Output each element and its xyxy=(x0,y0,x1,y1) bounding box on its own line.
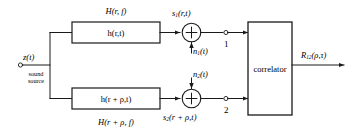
input-signal-label: z(t) xyxy=(23,53,34,62)
terminal-2-dot xyxy=(224,96,228,100)
sound-source-line2: source xyxy=(28,77,44,84)
upper-impulse-response-label: h(r,t) xyxy=(72,22,160,43)
terminal-1-dot xyxy=(224,30,228,34)
terminal-2-number: 2 xyxy=(224,105,229,115)
upper-output-signal-label: s1(r,t) xyxy=(172,9,190,18)
lower-noise-args: (t) xyxy=(200,69,208,79)
upper-noise-label: n1(t) xyxy=(193,47,208,56)
lower-output-signal-args: (r + ρ,t) xyxy=(169,112,197,122)
lower-noise-label: n2(t) xyxy=(193,70,208,79)
upper-transfer-function-label: H(r, f) xyxy=(72,6,160,16)
upper-noise-args: (t) xyxy=(200,46,208,56)
lower-impulse-response-label: h(r + ρ,t) xyxy=(72,88,160,109)
correlator-label: correlator xyxy=(248,22,292,115)
sound-source-line1: sound xyxy=(29,70,44,77)
input-terminal-dot xyxy=(18,63,22,67)
correlator-output-args: (ρ,τ) xyxy=(311,50,326,60)
lower-transfer-function-label: H(r + ρ, f) xyxy=(72,117,160,127)
correlator-output-label: R12(ρ,τ) xyxy=(301,51,326,60)
terminal-1-number: 1 xyxy=(224,39,229,49)
sound-source-label: sound source xyxy=(19,70,53,84)
block-diagram: z(t) sound source H(r, f) h(r,t) h(r + ρ… xyxy=(0,0,354,137)
lower-output-signal-label: s2(r + ρ,t) xyxy=(163,113,196,122)
upper-output-signal-args: (r,t) xyxy=(178,8,191,18)
